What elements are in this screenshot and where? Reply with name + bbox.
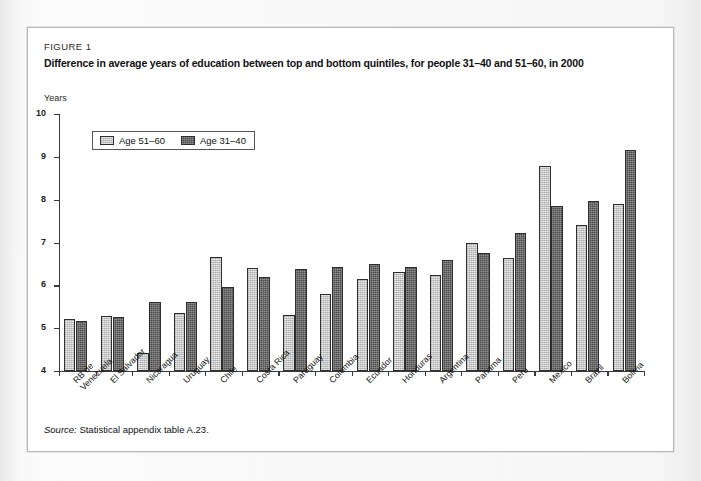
bar-age-51-60 [576, 225, 587, 371]
y-tick-label: 7 [41, 237, 46, 247]
chart-legend: Age 51–60Age 31–40 [92, 131, 255, 150]
source-text: Statistical appendix table A.23. [79, 424, 208, 435]
figure-panel: FIGURE 1 Difference in average years of … [27, 27, 674, 452]
source-label: Source: [44, 424, 77, 435]
figure-title: Difference in average years of education… [44, 57, 584, 69]
figure-number-label: FIGURE 1 [44, 41, 91, 52]
bar-age-31-40 [588, 201, 599, 371]
bar-group [498, 114, 535, 371]
bar-group [278, 114, 315, 371]
x-tick [607, 371, 608, 376]
y-tick-label: 8 [41, 194, 46, 204]
x-tick [205, 371, 206, 376]
bar-age-51-60 [174, 313, 185, 371]
bar-age-51-60 [393, 272, 404, 371]
bar-age-51-60 [539, 166, 550, 371]
x-tick [59, 371, 60, 376]
bar-age-31-40 [222, 287, 233, 371]
page-canvas: FIGURE 1 Difference in average years of … [0, 0, 701, 481]
y-tick-label: 5 [41, 322, 46, 332]
bar-age-31-40 [478, 253, 489, 371]
bar-group [132, 114, 169, 371]
x-tick [242, 371, 243, 376]
x-tick [461, 371, 462, 376]
bar-group [96, 114, 133, 371]
bar-age-31-40 [186, 302, 197, 371]
source-note: Source: Statistical appendix table A.23. [44, 424, 209, 435]
y-tick-label: 4 [41, 365, 46, 375]
x-tick [315, 371, 316, 376]
bar-age-31-40 [295, 269, 306, 371]
legend-swatch-age-31-40 [181, 136, 195, 145]
bar-age-31-40 [369, 264, 380, 371]
x-tick [498, 371, 499, 376]
bar-age-51-60 [283, 315, 294, 371]
bar-age-31-40 [625, 150, 636, 371]
bar-group [607, 114, 644, 371]
bar-group [242, 114, 279, 371]
bar-group [205, 114, 242, 371]
y-tick-label: 9 [41, 151, 46, 161]
bar-age-51-60 [247, 268, 258, 371]
bar-age-31-40 [332, 267, 343, 372]
y-axis-title: Years [44, 93, 67, 103]
x-tick [132, 371, 133, 376]
bar-group [315, 114, 352, 371]
y-tick-label: 10 [36, 108, 46, 118]
bar-age-51-60 [613, 204, 624, 371]
bar-group [59, 114, 96, 371]
x-tick [169, 371, 170, 376]
x-tick [278, 371, 279, 376]
bar-age-51-60 [64, 319, 75, 371]
x-tick [388, 371, 389, 376]
legend-item: Age 51–60 [100, 135, 165, 146]
x-tick [534, 371, 535, 376]
bar-age-51-60 [466, 243, 477, 372]
bar-group [571, 114, 608, 371]
legend-label: Age 31–40 [200, 135, 246, 146]
x-tick [425, 371, 426, 376]
chart-plot-area: 45678910 RB deVenezuelaEl SalvadorNicara… [59, 114, 644, 371]
bar-group [425, 114, 462, 371]
bar-age-31-40 [551, 206, 562, 371]
x-tick [571, 371, 572, 376]
bar-age-31-40 [515, 233, 526, 371]
legend-label: Age 51–60 [119, 135, 165, 146]
legend-swatch-age-51-60 [100, 136, 114, 145]
bar-age-51-60 [210, 257, 221, 371]
y-tick-label: 6 [41, 279, 46, 289]
bar-age-31-40 [442, 260, 453, 371]
bar-age-51-60 [503, 258, 514, 372]
bar-age-31-40 [149, 302, 160, 371]
bar-group [352, 114, 389, 371]
bar-group [534, 114, 571, 371]
bar-age-31-40 [259, 277, 270, 371]
x-tick [644, 371, 645, 376]
legend-item: Age 31–40 [181, 135, 246, 146]
x-tick [352, 371, 353, 376]
bar-group [461, 114, 498, 371]
bar-group [388, 114, 425, 371]
bar-group [169, 114, 206, 371]
bar-age-31-40 [405, 267, 416, 371]
